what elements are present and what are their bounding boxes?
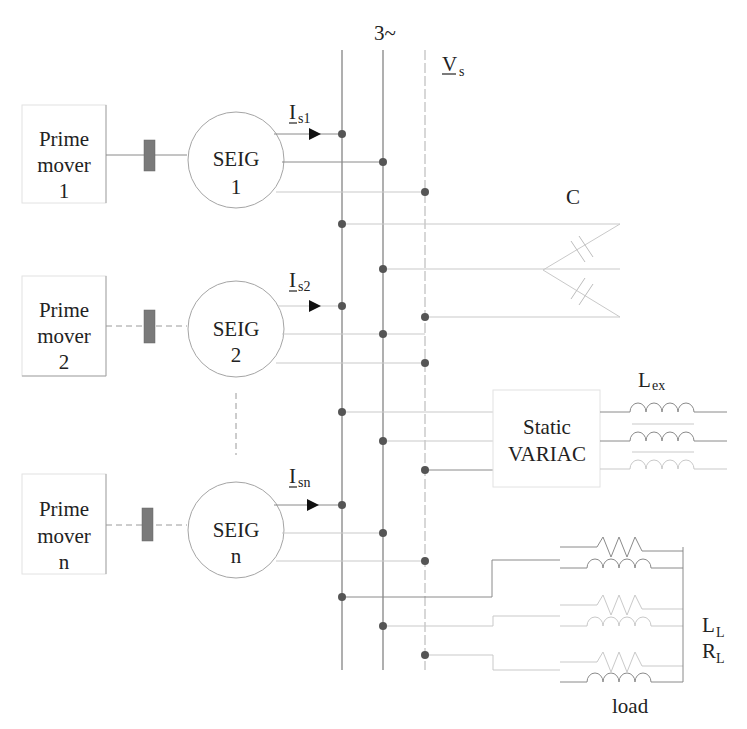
capacitor-bank: C bbox=[338, 185, 620, 321]
shaft-coupling-1 bbox=[144, 140, 155, 171]
prime-mover-n-label-2: mover bbox=[37, 524, 91, 548]
inductor-coil-icon bbox=[560, 559, 683, 568]
three-phase-bus bbox=[342, 50, 425, 670]
generator-unit-1: Prime mover 1 SEIG 1 I s1 bbox=[22, 100, 429, 208]
seig-2-number: 2 bbox=[231, 343, 242, 367]
excitation-inductor-label: L ex bbox=[638, 368, 665, 393]
voltage-subscript: s bbox=[459, 64, 464, 79]
inductor-coil-icon bbox=[560, 673, 683, 682]
current-arrow-icon bbox=[309, 300, 321, 312]
load-resistor-subscript: L bbox=[716, 651, 725, 666]
seig-n-number: n bbox=[231, 544, 242, 568]
shaft-coupling-n bbox=[142, 508, 153, 541]
current-symbol: I bbox=[289, 100, 296, 124]
generator-unit-n: Prime mover n SEIG n I sn bbox=[22, 464, 429, 578]
prime-mover-1-label-2: mover bbox=[37, 153, 91, 177]
load-inductance-label: L L bbox=[702, 613, 725, 640]
prime-mover-1-number: 1 bbox=[59, 179, 70, 203]
variac-label-2: VARIAC bbox=[508, 442, 586, 466]
load-inductor-symbol: L bbox=[702, 613, 715, 637]
resistor-icon bbox=[560, 595, 683, 615]
current-label-n: I sn bbox=[289, 464, 310, 490]
current-arrow-icon bbox=[309, 128, 321, 140]
variac-label-1: Static bbox=[523, 415, 571, 439]
seig-n-label: SEIG bbox=[213, 518, 260, 542]
current-symbol: I bbox=[289, 464, 296, 488]
load-label: load bbox=[612, 694, 649, 718]
static-variac: Static VARIAC bbox=[338, 390, 600, 487]
prime-mover-2-label: Prime bbox=[39, 298, 89, 322]
inductor-coil-icon bbox=[600, 432, 727, 441]
seig-2-label: SEIG bbox=[213, 317, 260, 341]
bus-phase-label: 3~ bbox=[374, 21, 396, 45]
capacitor-label: C bbox=[566, 185, 580, 209]
seig-1-label: SEIG bbox=[213, 147, 260, 171]
load-resistor-symbol: R bbox=[702, 639, 716, 663]
bus-voltage-label: V s bbox=[442, 52, 464, 79]
seig-parallel-system-diagram: 3~ V s Prime mover 1 SEIG 1 I s1 bbox=[0, 0, 747, 729]
inductor-coil-icon bbox=[600, 460, 727, 469]
current-label-2: I s2 bbox=[289, 268, 310, 294]
voltage-symbol: V bbox=[442, 52, 457, 76]
inductor-coil-icon bbox=[560, 617, 683, 626]
current-subscript: sn bbox=[298, 475, 310, 490]
load-inductor-subscript: L bbox=[716, 625, 725, 640]
load-branch: L L R L load bbox=[338, 537, 725, 718]
load-resistance-label: R L bbox=[702, 639, 725, 666]
current-symbol: I bbox=[289, 268, 296, 292]
resistor-icon bbox=[560, 652, 683, 672]
prime-mover-n-label: Prime bbox=[39, 497, 89, 521]
generator-unit-2: Prime mover 2 SEIG 2 I s2 bbox=[22, 268, 429, 455]
current-subscript: s2 bbox=[298, 279, 310, 294]
prime-mover-2-number: 2 bbox=[59, 350, 70, 374]
current-subscript: s1 bbox=[298, 111, 310, 126]
excitation-inductors: L ex bbox=[600, 368, 727, 469]
prime-mover-n-number: n bbox=[59, 550, 70, 574]
seig-1-number: 1 bbox=[231, 175, 242, 199]
prime-mover-2-label-2: mover bbox=[37, 324, 91, 348]
resistor-icon bbox=[560, 537, 683, 557]
shaft-coupling-2 bbox=[144, 310, 155, 343]
inductor-symbol: L bbox=[638, 368, 651, 392]
current-label-1: I s1 bbox=[289, 100, 310, 126]
current-arrow-icon bbox=[307, 499, 319, 511]
prime-mover-1-label: Prime bbox=[39, 127, 89, 151]
inductor-subscript: ex bbox=[652, 378, 665, 393]
inductor-coil-icon bbox=[600, 403, 727, 412]
